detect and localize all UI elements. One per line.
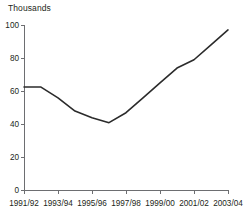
x-tick-label: 1991/92: [9, 199, 39, 208]
y-tick-label: 40: [10, 120, 20, 129]
x-tick-label: 1993/94: [43, 199, 73, 208]
y-tick-label: 80: [10, 54, 20, 63]
line-chart-figure: Thousands 100 80 60 40 20 0: [0, 0, 245, 218]
y-tick-label: 0: [14, 186, 19, 195]
y-axis-tick-marks: [21, 26, 24, 191]
y-tick-label: 20: [10, 153, 20, 162]
chart-plot-area: 100 80 60 40 20 0: [0, 0, 245, 218]
y-tick-label: 100: [5, 21, 19, 30]
y-tick-label: 60: [10, 87, 20, 96]
data-series-line: [24, 30, 228, 123]
x-axis-tick-labels: 1991/92 1993/94 1995/96 1997/98 1999/00 …: [9, 199, 243, 208]
x-tick-label: 1995/96: [77, 199, 107, 208]
x-tick-label: 1999/00: [145, 199, 175, 208]
y-axis-tick-labels: 100 80 60 40 20 0: [5, 21, 19, 195]
x-axis-tick-marks: [25, 191, 229, 195]
x-tick-label: 1997/98: [111, 199, 141, 208]
x-tick-label: 2003/04: [213, 199, 243, 208]
x-tick-label: 2001/02: [179, 199, 209, 208]
